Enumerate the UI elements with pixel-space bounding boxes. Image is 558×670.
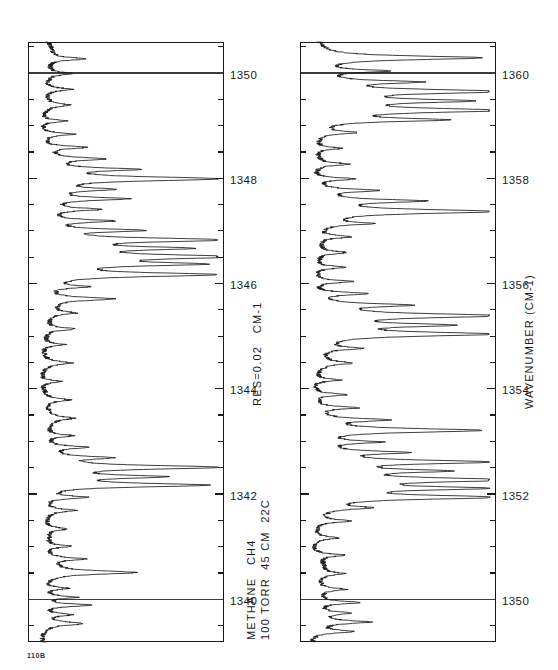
x-axis-tick-label: 1354 [502,384,529,396]
sample-conditions-label: 100 TORR 45 CM 22C [258,499,272,640]
spectrum-line [40,42,218,642]
spectrum-line [310,42,490,642]
upper-spectrum-panel: 134013421344134613481350 [28,42,224,642]
x-axis-tick-label: 1348 [230,174,257,186]
spectrum-trace [300,42,496,642]
spectrum-figure: 110B METHANE CH4 100 TORR 45 CM 22C RES=… [0,0,558,670]
x-axis-tick-label: 1358 [502,174,529,186]
spectrum-trace [28,42,224,642]
x-axis-tick-label: 1350 [502,595,529,607]
sample-name-label: METHANE CH4 [244,539,258,640]
x-axis-tick-label: 1350 [230,69,257,81]
x-axis-tick-label: 1340 [230,595,257,607]
lower-spectrum-panel: 135013521354135613581360 [300,42,496,642]
x-axis-tick-label: 1346 [230,279,257,291]
x-axis-tick-label: 1344 [230,384,257,396]
x-axis-tick-label: 1352 [502,490,529,502]
x-axis-tick-label: 1342 [230,490,257,502]
x-axis-tick-label: 1360 [502,69,529,81]
x-axis-tick-label: 1356 [502,279,529,291]
plot-identifier-label: 110B [27,652,46,659]
